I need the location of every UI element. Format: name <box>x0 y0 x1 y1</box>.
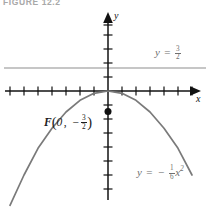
y-axis-label: y <box>114 10 118 21</box>
parabola-exponent: 2 <box>180 164 184 173</box>
focus-name: F <box>44 116 52 128</box>
focus-numerator: 3 <box>81 114 87 122</box>
focus-point <box>105 108 112 115</box>
parabola-numerator: 1 <box>169 165 175 172</box>
focus-denominator: 2 <box>81 122 87 131</box>
parabola-denominator: 6 <box>169 173 175 181</box>
x-axis-label: x <box>196 93 200 104</box>
focus-close-paren: ) <box>87 114 92 130</box>
parabola-lhs: y <box>137 166 142 178</box>
y-axis-arrow-icon <box>103 12 113 23</box>
focus-comma: , <box>62 116 68 128</box>
parabola-equation-label: y = − 1 6 x2 <box>137 164 184 181</box>
directrix-lhs: y <box>155 46 160 58</box>
directrix-numerator: 3 <box>175 46 181 53</box>
directrix-fraction: 3 2 <box>175 46 182 62</box>
directrix-equation-label: y = 3 2 <box>155 46 181 62</box>
directrix-denominator: 2 <box>175 53 181 61</box>
parabola-operator: = <box>145 166 154 178</box>
directrix-operator: = <box>163 46 172 58</box>
focus-sign: − <box>71 116 81 128</box>
figure-container: FIGURE 12.2 <box>0 0 210 212</box>
parabola-curve <box>10 91 192 205</box>
parabola-sign: − <box>157 166 166 178</box>
focus-label: F(0, − 3 2 ) <box>44 114 92 131</box>
